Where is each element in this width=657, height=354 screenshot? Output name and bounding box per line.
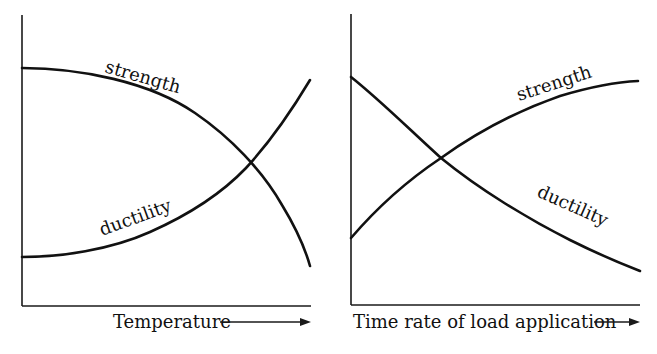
panel-load-rate: strength ductility Time rate of load app… [351, 14, 640, 332]
x-axis-label: Time rate of load application [353, 311, 617, 332]
ductility-label: ductility [96, 194, 175, 240]
strength-curve [22, 68, 310, 266]
ductility-label: ductility [534, 180, 612, 230]
x-axis-label: Temperature [113, 311, 231, 332]
arrow-head-icon [300, 318, 311, 326]
ductility-curve [22, 80, 310, 257]
panel-temperature: strength ductility Temperature [22, 15, 311, 332]
diagram-canvas: strength ductility Temperature strength … [0, 0, 657, 354]
strength-label: strength [103, 56, 184, 98]
figure: strength ductility Temperature strength … [0, 0, 657, 354]
ductility-curve [351, 77, 640, 271]
arrow-head-icon [629, 318, 640, 326]
